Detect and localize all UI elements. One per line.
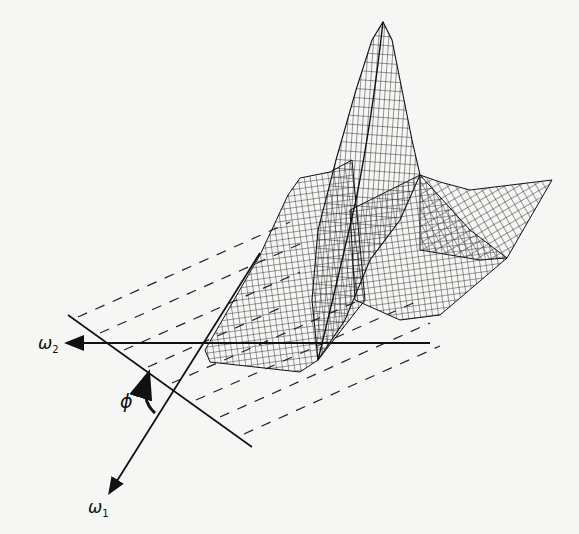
omega2-symbol: ω bbox=[38, 333, 52, 353]
omega2-label: ω2 bbox=[38, 333, 59, 355]
omega2-subscript: 2 bbox=[52, 344, 58, 355]
wireframe-surface bbox=[205, 22, 552, 372]
angle-phi-label: ϕ bbox=[120, 390, 133, 412]
omega1-label: ω1 bbox=[88, 497, 109, 519]
diagram-canvas bbox=[0, 0, 579, 534]
omega1-symbol: ω bbox=[88, 497, 102, 517]
omega1-subscript: 1 bbox=[102, 508, 108, 519]
angle-arc bbox=[145, 375, 155, 413]
omega1-axis bbox=[110, 253, 260, 492]
